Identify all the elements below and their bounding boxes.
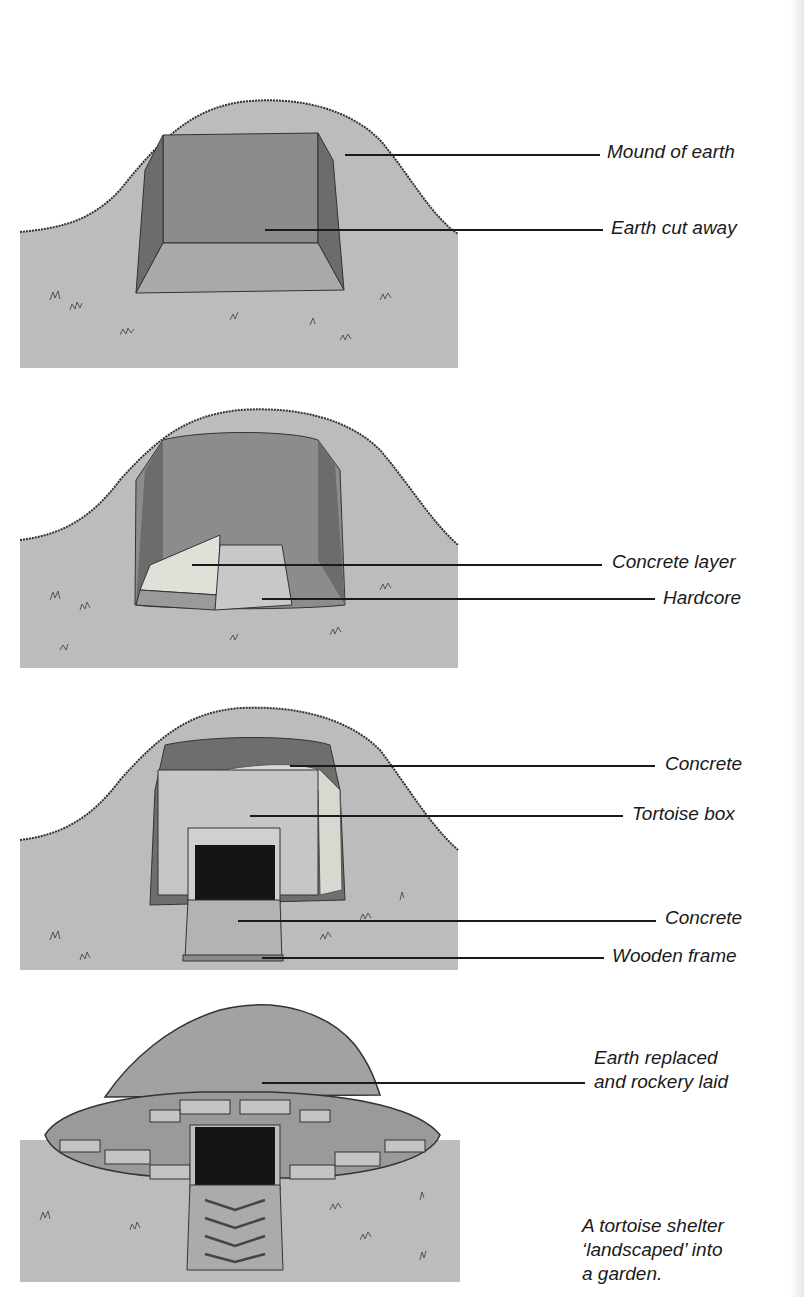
caption-line2: ‘landscaped’ into [582, 1238, 724, 1262]
caption-line3: a garden. [582, 1262, 724, 1286]
rockery-shelter-illustration [0, 0, 804, 1297]
caption-line1: A tortoise shelter [582, 1214, 724, 1238]
figure-caption: A tortoise shelter ‘landscaped’ into a g… [582, 1214, 724, 1286]
page-edge-shadow [790, 0, 804, 1297]
label-earth-replaced-line1: Earth replaced [594, 1046, 728, 1070]
label-earth-replaced-line2: and rockery laid [594, 1070, 728, 1094]
panel-step-4: Earth replaced and rockery laid A tortoi… [0, 0, 804, 1297]
label-earth-replaced: Earth replaced and rockery laid [594, 1046, 728, 1094]
leader-line [262, 1082, 585, 1084]
